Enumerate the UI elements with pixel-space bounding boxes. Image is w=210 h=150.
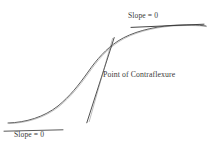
label-point-of-contraflexure: Point of Contraflexure — [103, 71, 175, 79]
tangent-upper-right — [131, 24, 204, 27]
beam-deflection-figure: Slope = 0 Slope = 0 Point of Contraflexu… — [0, 0, 210, 150]
label-slope-zero-top: Slope = 0 — [128, 12, 158, 20]
tangent-inflection — [87, 38, 114, 123]
label-slope-zero-bottom: Slope = 0 — [14, 131, 44, 139]
tangent-inflection-shadow — [89, 38, 112, 121]
